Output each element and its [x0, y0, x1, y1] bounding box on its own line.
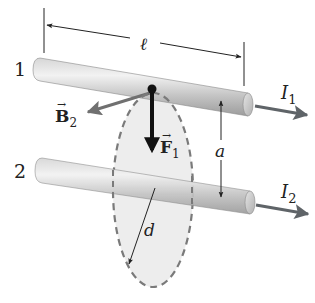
wire-1-label: 1: [14, 58, 26, 80]
current-1-subscript: 1: [288, 92, 296, 107]
radius-label: d: [144, 220, 155, 240]
contact-point-dot: [148, 85, 157, 94]
length-label: ℓ: [140, 34, 147, 54]
separation-dimension: a: [215, 101, 225, 197]
force-subscript: 1: [172, 147, 180, 161]
svg-text:B2: B2: [55, 106, 77, 130]
field-subscript: 2: [69, 116, 77, 130]
field-symbol: B: [55, 106, 69, 126]
force-symbol: F: [160, 137, 172, 157]
field-vector-b2-label: → B2: [55, 98, 77, 130]
current-1-arrow: [255, 106, 307, 115]
parallel-wires-diagram: ℓ a d 1 2 I1 I2: [0, 0, 315, 303]
svg-text:I1: I1: [280, 82, 296, 107]
current-2-subscript: 2: [288, 191, 296, 206]
separation-label: a: [215, 141, 225, 161]
wire-2-label: 2: [14, 160, 26, 182]
current-2-arrow: [256, 205, 308, 214]
svg-text:I2: I2: [280, 181, 296, 206]
